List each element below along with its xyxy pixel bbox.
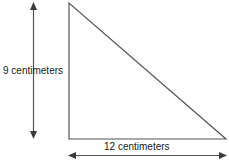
height-label: 9 centimeters — [3, 65, 63, 77]
height-arrow-head-down — [30, 131, 37, 139]
figure-canvas — [0, 0, 229, 162]
geometry-figure: 9 centimeters 12 centimeters — [0, 0, 229, 162]
height-arrow-head-up — [30, 2, 37, 10]
triangle-shape — [69, 3, 226, 139]
base-dimension-arrow — [68, 152, 227, 159]
base-arrow-head-right — [219, 152, 227, 159]
base-arrow-head-left — [68, 152, 76, 159]
base-label: 12 centimeters — [104, 141, 170, 153]
